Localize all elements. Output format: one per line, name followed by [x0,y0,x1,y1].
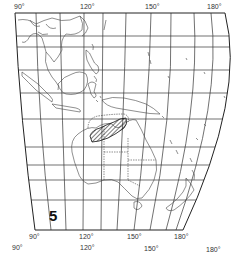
next-map-label-90: 90° [12,244,23,251]
next-map-label-120: 120° [80,244,94,251]
longitude-label-top-90: 90° [14,3,25,10]
longitude-label-bottom-180: 180° [174,233,188,240]
next-map-label-180: 180° [206,246,220,253]
next-map-label-150: 150° [144,245,158,252]
coastlines [18,16,225,211]
longitude-label-bottom-150: 150° [127,233,141,240]
figure-number: 5 [49,208,57,223]
longitude-label-top-120: 120° [80,3,94,10]
hatched-region [90,118,127,142]
longitude-label-top-150: 150° [145,3,159,10]
longitude-label-top-180: 180° [207,3,221,10]
longitude-label-bottom-90: 90° [29,233,40,240]
longitude-label-bottom-120: 120° [79,233,93,240]
